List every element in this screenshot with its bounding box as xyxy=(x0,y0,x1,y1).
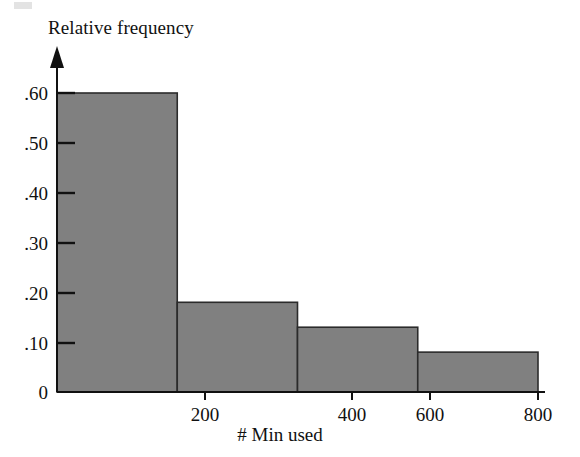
bar-600-800 xyxy=(418,352,538,392)
y-axis-arrow xyxy=(50,46,64,68)
y-tick-label-30: .30 xyxy=(24,233,48,254)
x-tick-label-200: 200 xyxy=(191,404,220,425)
x-tick-label-600: 600 xyxy=(416,404,445,425)
x-tick-marks xyxy=(205,392,538,400)
y-tick-label-50: .50 xyxy=(24,133,48,154)
y-tick-label-0: 0 xyxy=(39,382,49,403)
y-tick-labels: .60 .50 .40 .30 .20 .10 0 xyxy=(24,83,48,403)
plot-area: .60 .50 .40 .30 .20 .10 0 200 400 600 80… xyxy=(0,0,580,457)
bar-400-600 xyxy=(298,327,418,392)
x-tick-labels: 200 400 600 800 xyxy=(191,404,553,425)
y-tick-label-10: .10 xyxy=(24,333,48,354)
x-axis-title-wrap: # Min used xyxy=(0,424,580,446)
histogram-figure: Relative frequency xyxy=(0,0,580,457)
y-tick-label-20: .20 xyxy=(24,283,48,304)
x-axis-title: # Min used xyxy=(237,424,323,445)
bar-0-200 xyxy=(57,93,177,392)
y-tick-label-40: .40 xyxy=(24,183,48,204)
y-tick-label-60: .60 xyxy=(24,83,48,104)
x-tick-label-400: 400 xyxy=(338,404,367,425)
bars-group xyxy=(57,93,538,392)
x-tick-label-800: 800 xyxy=(524,404,553,425)
bar-200-400 xyxy=(177,302,297,392)
